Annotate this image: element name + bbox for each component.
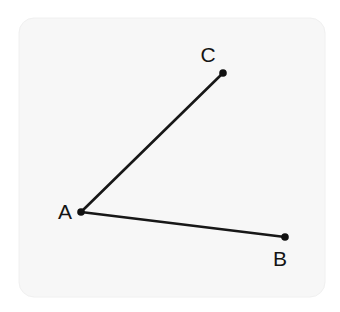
vertex-point-c — [219, 69, 227, 77]
vertex-point-b — [281, 233, 289, 241]
vertex-point-a — [77, 208, 85, 216]
vertex-label-b: B — [273, 247, 287, 270]
angle-diagram-figure: A B C — [0, 0, 340, 312]
diagram-canvas: A B C — [0, 0, 340, 312]
vertex-label-a: A — [58, 200, 72, 223]
vertex-label-c: C — [200, 43, 215, 66]
